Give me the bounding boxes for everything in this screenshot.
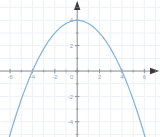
parabola-chart: -6-4-20246 -4-224 (0, 0, 160, 137)
x-tick-label: -4 (30, 74, 36, 80)
y-tick-label: -2 (68, 94, 74, 100)
x-tick-label: -6 (7, 74, 13, 80)
chart-plot-area: -6-4-20246 -4-224 (0, 0, 160, 137)
x-tick-label: -2 (52, 74, 58, 80)
y-tick-label: -4 (68, 119, 74, 125)
